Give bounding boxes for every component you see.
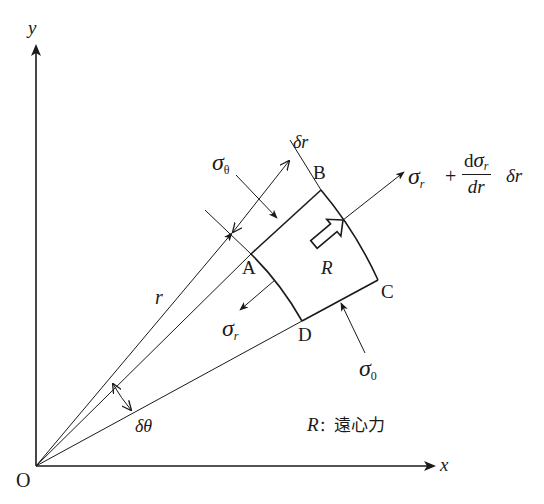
diagram-canvas: y x O A B C D r δr σθ σr σ0 R σr + dσr d… [0,0,544,504]
fraction-numerator: dσr [462,150,491,175]
diagram-svg [0,0,544,504]
legend-text: 遠心力 [334,415,385,435]
sigma-theta-label: σθ [212,150,230,176]
sigma-0-arrow [341,303,365,353]
r-label: r [155,287,163,307]
delta-r-label: δr [293,133,308,151]
sigma-0-label: σ0 [359,356,377,382]
delta-r-dimension [233,161,289,232]
derivative-fraction: dσr dr [462,150,491,196]
sigma-0-symbol: σ [359,355,371,381]
point-B-label: B [313,163,326,182]
radial-line-lower [36,280,378,466]
delta-theta-arc-arrow [113,384,131,410]
sigma-r-arrow [240,280,275,310]
sigma-theta-symbol: σ [212,149,224,175]
legend-separator: ： [319,417,334,435]
centrifugal-R-label: R [321,258,333,277]
fraction-denominator: dr [462,175,491,196]
delta-theta-label: δθ [135,417,152,435]
delta-r-tail-label: δr [506,166,522,185]
sigma-r-subscript: r [234,329,239,343]
sigma-r-label: σr [222,316,239,342]
sigma-0-subscript: 0 [371,369,377,383]
plus-sign: + [445,166,456,186]
numerator-sigma: σ [474,148,484,172]
delta-r-extension-inner [205,210,251,254]
centrifugal-force-arrow-icon [307,212,350,253]
x-axis [36,461,436,471]
y-axis [31,44,41,466]
sigma-r-symbol: σ [222,315,234,341]
r-dimension-line [36,233,232,466]
sigma-theta-subscript: θ [224,163,230,177]
origin-label: O [16,470,30,490]
point-A-label: A [242,258,256,277]
x-axis-label: x [440,455,448,474]
point-C-label: C [381,282,394,301]
outer-sigma-symbol: σ [408,163,420,189]
numerator-d: d [464,150,474,171]
radial-line-upper [36,190,321,466]
outer-sigma-r-label: σr [408,164,425,190]
sigma-r-outer-arrow [343,172,404,220]
arc-AD [251,254,302,321]
point-D-label: D [298,325,312,344]
sigma-theta-arrow [236,175,277,218]
numerator-subscript: r [484,159,489,173]
legend: R：遠心力 [307,415,385,434]
y-axis-label: y [28,18,36,37]
outer-sigma-subscript: r [420,177,425,191]
legend-symbol: R [307,414,319,435]
